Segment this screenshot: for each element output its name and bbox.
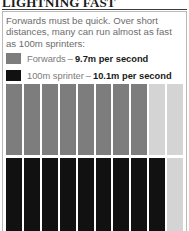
bar-segment: [78, 84, 94, 155]
bar-segment: [113, 158, 129, 231]
bar-chart: [6, 84, 183, 231]
chart-legend: Forwards – 9.7m per second 100m sprinter…: [6, 51, 184, 85]
legend-swatch-sprinter: [6, 70, 21, 81]
infographic-panel: LIGHTNING FAST Forwards must be quick. O…: [0, 0, 189, 231]
bar-segment: [149, 158, 165, 231]
intro-paragraph: Forwards must be quick. Over short dista…: [6, 15, 178, 49]
bar-segment: [131, 158, 147, 231]
legend-label-forwards: Forwards: [27, 54, 66, 64]
bar-segment: [42, 158, 58, 231]
legend-value-sprinter: 10.1m per second: [93, 71, 172, 81]
bar-segment: [149, 84, 165, 155]
page-title: LIGHTNING FAST: [0, 0, 189, 8]
bar-segment: [78, 158, 94, 231]
bar-segment: [113, 84, 129, 155]
bar-segment: [131, 84, 147, 155]
bar-segment: [24, 158, 40, 231]
bar-segment: [60, 158, 76, 231]
bar-segment: [6, 84, 22, 155]
legend-dash-forwards: –: [66, 54, 75, 64]
title-divider: [2, 9, 187, 10]
bar-segment: [96, 84, 112, 155]
bar-segment: [96, 158, 112, 231]
bar-segment: [24, 84, 40, 155]
bar-segment: [167, 158, 183, 231]
legend-dash-sprinter: –: [84, 71, 93, 81]
legend-swatch-forwards: [6, 53, 21, 64]
legend-label-sprinter: 100m sprinter: [27, 71, 84, 81]
legend-item-sprinter: 100m sprinter – 10.1m per second: [6, 68, 184, 83]
bar-segment: [6, 158, 22, 231]
bar-row-forwards: [6, 84, 183, 155]
bar-segment: [42, 84, 58, 155]
bar-segment: [60, 84, 76, 155]
title-block: LIGHTNING FAST: [0, 0, 189, 8]
bar-row-sprinter: [6, 158, 183, 231]
bar-segment: [167, 84, 183, 155]
legend-value-forwards: 9.7m per second: [75, 54, 148, 64]
legend-item-forwards: Forwards – 9.7m per second: [6, 51, 184, 66]
